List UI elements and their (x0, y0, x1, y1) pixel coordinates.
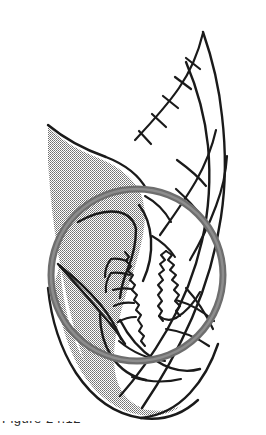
branching-tick-marks (135, 33, 203, 144)
right-serrated-margin (158, 251, 200, 321)
figure-caption: Figure 24.12 (0, 421, 266, 435)
figure-illustration: Figure 24.12 (0, 0, 266, 435)
figure-caption-text: Figure 24.12 (2, 421, 81, 425)
illustration-canvas (0, 0, 266, 435)
shaded-lobe (48, 126, 181, 416)
